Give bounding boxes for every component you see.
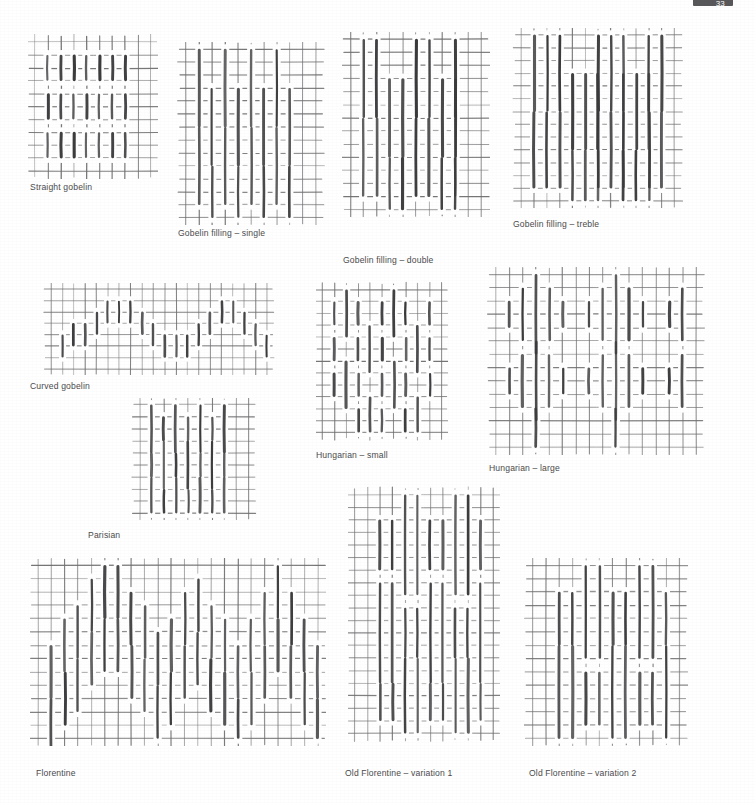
caption-florentine: Florentine <box>36 768 76 779</box>
canvas-grid-florentine <box>30 558 326 746</box>
caption-straight-gobelin: Straight gobelin <box>30 182 92 193</box>
caption-old-florentine-variation-2: Old Florentine – variation 2 <box>529 768 636 779</box>
canvas-threads <box>44 283 274 375</box>
stitch-diagram-gobelin-filling-single <box>176 42 326 225</box>
canvas-grid-gobelin-filling-treble <box>512 28 684 208</box>
canvas-grid-gobelin-filling-double <box>342 32 490 217</box>
caption-parisian: Parisian <box>88 530 120 541</box>
page-number-label: 33 <box>716 0 725 8</box>
canvas-grid-parisian <box>131 398 257 520</box>
caption-gobelin-filling-treble: Gobelin filling – treble <box>513 219 599 230</box>
stitch-diagram-straight-gobelin <box>28 34 158 179</box>
page-canvas: 33 Straight gobelinGobelin filling – sin… <box>0 0 755 803</box>
caption-hungarian-large: Hungarian – large <box>489 463 560 474</box>
caption-gobelin-filling-single: Gobelin filling – single <box>178 228 265 239</box>
stitch-diagram-hungarian-small <box>316 280 448 442</box>
canvas-grid-straight-gobelin <box>28 34 158 179</box>
stitch-diagram-curved-gobelin <box>28 283 290 375</box>
stitch-diagram-old-florentine-variation-2 <box>524 558 688 746</box>
caption-hungarian-small: Hungarian – small <box>316 450 388 461</box>
canvas-grid-hungarian-large <box>487 267 705 455</box>
stitch-diagram-gobelin-filling-treble <box>512 28 684 208</box>
stitch-diagram-florentine <box>30 558 326 746</box>
canvas-grid-gobelin-filling-single <box>176 42 326 225</box>
stitch-diagram-gobelin-filling-double <box>342 32 490 217</box>
canvas-grid-curved-gobelin <box>28 283 290 375</box>
canvas-grid-old-florentine-variation-2 <box>524 558 688 746</box>
stitch-diagram-parisian <box>131 398 257 520</box>
stitch-diagram-old-florentine-variation-1 <box>348 483 500 745</box>
stitch-diagram-hungarian-large <box>487 267 705 455</box>
caption-curved-gobelin: Curved gobelin <box>30 381 90 392</box>
caption-old-florentine-variation-1: Old Florentine – variation 1 <box>345 768 452 779</box>
canvas-grid-old-florentine-variation-1 <box>348 483 500 745</box>
page-number-tab <box>693 0 733 6</box>
caption-gobelin-filling-double: Gobelin filling – double <box>343 255 434 266</box>
canvas-grid-hungarian-small <box>316 280 448 442</box>
